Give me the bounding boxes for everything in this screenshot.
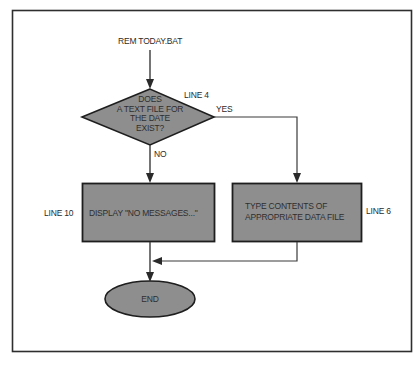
no-branch-line-ref: LINE 10 bbox=[44, 209, 73, 218]
type-contents-text: TYPE CONTENTS OF APPROPRIATE DATA FILE bbox=[245, 201, 344, 223]
start-label: REM TODAY.BAT bbox=[118, 37, 182, 46]
type-contents-line-1: TYPE CONTENTS OF bbox=[245, 201, 344, 212]
type-contents-line-2: APPROPRIATE DATA FILE bbox=[245, 212, 344, 223]
no-messages-text: DISPLAY "NO MESSAGES..." bbox=[89, 208, 198, 219]
flowchart-canvas bbox=[0, 0, 419, 369]
yes-branch-line-ref: LINE 6 bbox=[366, 207, 391, 216]
yes-label: YES bbox=[216, 105, 232, 114]
end-text: END bbox=[120, 295, 180, 305]
decision-line-ref: LINE 4 bbox=[184, 91, 209, 100]
decision-line-4: EXIST? bbox=[100, 124, 200, 134]
no-label: NO bbox=[154, 150, 166, 159]
decision-text: DOES A TEXT FILE FOR THE DATE EXIST? bbox=[100, 95, 200, 133]
diagram-frame bbox=[13, 11, 412, 352]
